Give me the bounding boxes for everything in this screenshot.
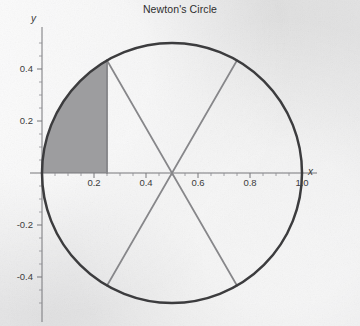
chart-screenshot: Newton's Circle y x 0.2 0.4 0.6 0.8 1.0 … [0, 0, 360, 326]
plot-canvas [0, 0, 360, 326]
shaded-region [42, 60, 107, 173]
x-major-ticks [94, 173, 302, 178]
